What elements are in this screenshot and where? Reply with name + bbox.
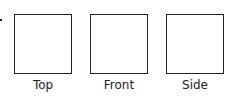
top-view-box — [14, 14, 72, 74]
front-view-label: Front — [90, 78, 148, 92]
side-view-label: Side — [166, 78, 224, 92]
view-top: Top — [14, 14, 72, 92]
front-view-box — [90, 14, 148, 74]
bullet-dot — [0, 19, 2, 21]
view-front: Front — [90, 14, 148, 92]
view-side: Side — [166, 14, 224, 92]
top-view-label: Top — [14, 78, 72, 92]
side-view-box — [166, 14, 224, 74]
